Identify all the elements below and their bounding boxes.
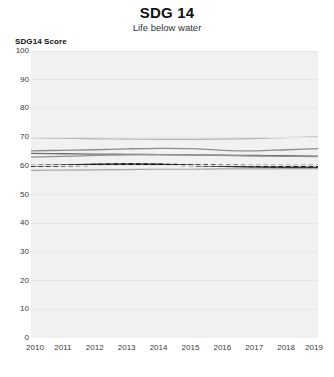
y-tick-label-70: 70 <box>3 133 29 141</box>
y-tick-label-50: 50 <box>3 191 29 199</box>
x-tick-label-2018: 2018 <box>277 343 295 352</box>
gridline-y-90 <box>31 79 318 80</box>
y-tick-label-30: 30 <box>3 248 29 256</box>
x-tick-label-2012: 2012 <box>86 343 104 352</box>
x-tick-label-2014: 2014 <box>150 343 168 352</box>
y-tick-label-90: 90 <box>3 76 29 84</box>
chart-container: SDG 14 Life below water SDG14 Score 0102… <box>0 0 334 377</box>
gridline-y-10 <box>31 309 318 310</box>
x-axis: 2010201120122013201420152016201720182019 <box>31 343 318 357</box>
y-tick-label-0: 0 <box>3 334 29 342</box>
y-tick-label-100: 100 <box>3 47 29 55</box>
x-tick-label-2011: 2011 <box>54 343 71 352</box>
chart-subtitle: Life below water <box>0 22 334 33</box>
x-tick-label-2010: 2010 <box>26 343 44 352</box>
line-series-7 <box>31 169 318 171</box>
x-tick-label-2017: 2017 <box>245 343 263 352</box>
y-tick-label-40: 40 <box>3 219 29 227</box>
y-tick-label-80: 80 <box>3 104 29 112</box>
y-tick-label-10: 10 <box>3 305 29 313</box>
x-tick-label-2019: 2019 <box>305 343 323 352</box>
gridline-y-30 <box>31 251 318 252</box>
x-tick-label-2013: 2013 <box>118 343 136 352</box>
y-axis: 0102030405060708090100 <box>0 0 29 377</box>
gridline-y-70 <box>31 137 318 138</box>
gridline-y-100 <box>31 51 318 52</box>
x-tick-label-2016: 2016 <box>213 343 231 352</box>
chart-title: SDG 14 <box>0 4 334 21</box>
line-series-4 <box>31 155 318 158</box>
gridline-y-50 <box>31 194 318 195</box>
y-tick-label-20: 20 <box>3 277 29 285</box>
gridline-y-20 <box>31 280 318 281</box>
gridline-y-40 <box>31 223 318 224</box>
gridline-y-60 <box>31 165 318 166</box>
y-tick-label-60: 60 <box>3 162 29 170</box>
x-tick-label-2015: 2015 <box>182 343 200 352</box>
gridline-y-80 <box>31 108 318 109</box>
plot-area <box>31 51 318 338</box>
line-series-2 <box>31 148 318 151</box>
gridline-y-0 <box>31 338 318 339</box>
